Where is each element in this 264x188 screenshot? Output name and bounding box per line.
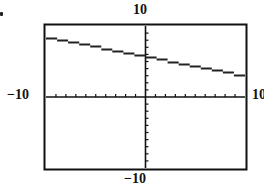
graph-window xyxy=(0,0,264,188)
axes xyxy=(46,26,245,168)
